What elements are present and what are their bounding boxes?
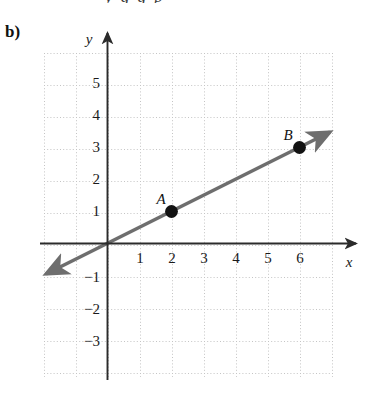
graph-line <box>46 132 330 274</box>
y-tick-label-5: 5 <box>93 75 101 91</box>
y-tick-label-2: 2 <box>93 171 101 187</box>
x-tick-label-3: 3 <box>200 250 208 266</box>
point-a-marker <box>165 205 178 218</box>
x-tick-label-4: 4 <box>232 250 240 266</box>
x-tick-label-1: 1 <box>136 250 144 266</box>
x-axis-label: x <box>345 254 353 270</box>
y-tick-label-3: 3 <box>93 139 101 155</box>
point-b-marker <box>293 141 306 154</box>
point-b-label: B <box>283 127 292 143</box>
point-a-label: A <box>155 191 166 207</box>
graph-figure: y g g p b) <box>0 0 376 395</box>
x-tick-label-6: 6 <box>296 250 304 266</box>
y-tick-label-1: 1 <box>93 203 101 219</box>
grid-lines <box>44 53 333 377</box>
y-axis-label: y <box>84 31 93 47</box>
x-tick-label-5: 5 <box>264 250 272 266</box>
coordinate-plane: y x 1 2 3 4 5 6 5 4 3 2 1 −1 −2 −3 A B <box>0 0 376 395</box>
y-tick-label-4: 4 <box>93 107 101 123</box>
y-tick-label-neg-1: −1 <box>84 269 100 285</box>
x-tick-label-2: 2 <box>168 250 176 266</box>
y-tick-label-neg-3: −3 <box>84 333 100 349</box>
y-tick-label-neg-2: −2 <box>84 301 100 317</box>
